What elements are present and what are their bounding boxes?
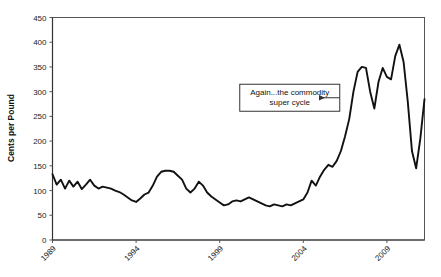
y-tick-label: 50 xyxy=(38,211,47,220)
y-tick-label: 350 xyxy=(33,63,47,72)
annotation-text-line-2: super cycle xyxy=(270,98,311,107)
y-tick-label: 150 xyxy=(33,162,47,171)
annotation-callout: Again...the commodity super cycle xyxy=(240,84,340,111)
y-axis-title: Cents per Pound xyxy=(6,94,16,162)
annotation-text-line-1: Again...the commodity xyxy=(250,88,329,97)
y-tick-label: 450 xyxy=(33,14,47,23)
y-tick-label: 250 xyxy=(33,112,47,121)
y-tick-label: 400 xyxy=(33,38,47,47)
commodity-price-chart: 050100150200250300350400450 198919941999… xyxy=(0,0,441,277)
y-tick-label: 300 xyxy=(33,88,47,97)
y-tick-label: 100 xyxy=(33,187,47,196)
chart-background xyxy=(0,0,441,277)
y-tick-label: 0 xyxy=(42,236,47,245)
y-tick-label: 200 xyxy=(33,137,47,146)
chart-canvas: 050100150200250300350400450 198919941999… xyxy=(0,0,441,277)
